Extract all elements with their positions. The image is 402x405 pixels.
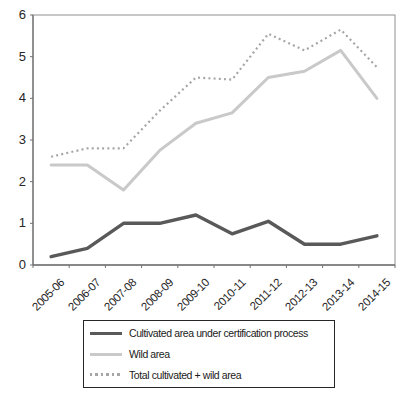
plot-area xyxy=(0,0,402,315)
wild-line-swatch xyxy=(90,353,122,356)
y-tick-label: 4 xyxy=(0,91,26,105)
y-tick-label: 0 xyxy=(0,258,26,272)
legend-item-total: Total cultivated + wild area xyxy=(90,364,326,385)
total-dotted-line-swatch xyxy=(90,373,122,376)
legend-label: Cultivated area under certification proc… xyxy=(129,327,308,339)
cultivated-line-swatch xyxy=(90,332,122,335)
legend-label: Wild area xyxy=(129,348,170,360)
line-chart-figure: 0123456 2005-062006-072007-082008-092009… xyxy=(0,0,402,405)
legend-label: Total cultivated + wild area xyxy=(129,369,241,381)
y-tick-label: 5 xyxy=(0,50,26,64)
legend-item-wild: Wild area xyxy=(90,344,326,365)
legend: Cultivated area under certification proc… xyxy=(83,320,335,388)
y-tick-label: 3 xyxy=(0,133,26,147)
y-tick-label: 1 xyxy=(0,216,26,230)
y-tick-label: 2 xyxy=(0,175,26,189)
legend-item-cultivated: Cultivated area under certification proc… xyxy=(90,323,326,344)
y-tick-label: 6 xyxy=(0,8,26,22)
